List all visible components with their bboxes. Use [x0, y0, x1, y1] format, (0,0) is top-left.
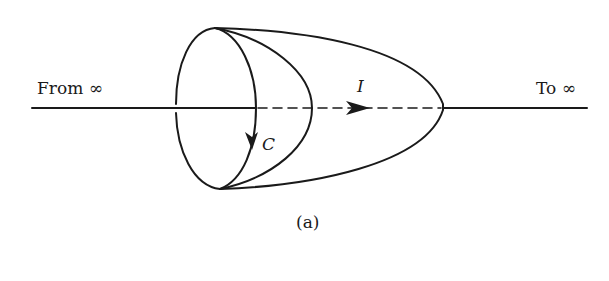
diagram-svg — [0, 0, 609, 281]
to-infinity-label: To ∞ — [536, 80, 576, 97]
contour-arrow-icon — [245, 132, 258, 150]
diagram-canvas: From ∞ To ∞ I C (a) — [0, 0, 609, 281]
figure-caption: (a) — [296, 214, 319, 231]
current-label: I — [357, 78, 364, 95]
loop-left-lower — [176, 113, 220, 189]
from-infinity-label: From ∞ — [37, 80, 103, 97]
contour-label: C — [262, 136, 275, 153]
loop-left-upper — [176, 28, 215, 104]
